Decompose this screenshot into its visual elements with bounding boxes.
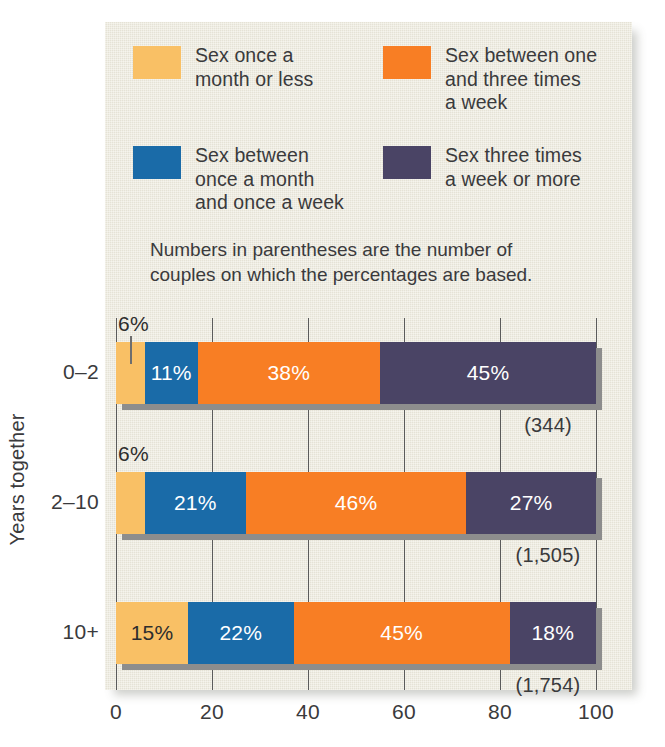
legend-item-one-to-three-week: Sex between one and three times a week xyxy=(383,44,597,115)
legend-item-label: Sex once a month or less xyxy=(195,44,313,91)
sample-count-label: (344) xyxy=(500,414,596,437)
legend-swatch-icon xyxy=(133,46,181,79)
bar-segment xyxy=(116,472,145,534)
stacked-bar: 21%46%27% xyxy=(116,472,596,534)
bar-segment: 15% xyxy=(116,602,188,664)
bar-row: 15%22%45%18% xyxy=(116,602,596,664)
bar-segment: 11% xyxy=(145,342,198,404)
x-axis-tick-label: 40 xyxy=(278,700,338,724)
bar-segment: 18% xyxy=(510,602,596,664)
bar-row: 11%38%45% xyxy=(116,342,596,404)
chart-figure: Sex once a month or less Sex between one… xyxy=(0,0,665,747)
legend-swatch-icon xyxy=(133,146,181,179)
sample-count-label: (1,754) xyxy=(500,674,596,697)
legend-item-label: Sex between once a month and once a week xyxy=(195,144,344,215)
label-leader-line xyxy=(130,336,132,364)
x-axis-tick-label: 60 xyxy=(374,700,434,724)
y-axis-tick-label: 2–10 xyxy=(51,490,99,514)
bar-segment: 22% xyxy=(188,602,294,664)
y-axis-title: Years together xyxy=(6,385,29,575)
segment-value-label-external: 6% xyxy=(118,442,149,466)
x-axis-tick-label: 80 xyxy=(470,700,530,724)
legend-item-label: Sex between one and three times a week xyxy=(445,44,597,115)
legend-item-three-plus-week: Sex three times a week or more xyxy=(383,144,582,191)
bar-segment: 46% xyxy=(246,472,467,534)
stacked-bar: 15%22%45%18% xyxy=(116,602,596,664)
bar-segment: 45% xyxy=(380,342,596,404)
bar-segment: 21% xyxy=(145,472,246,534)
sample-count-label: (1,505) xyxy=(500,544,596,567)
x-axis-tick-label: 100 xyxy=(566,700,626,724)
legend-item-label: Sex three times a week or more xyxy=(445,144,582,191)
legend-item-once-month-or-less: Sex once a month or less xyxy=(133,44,313,91)
bar-row: 21%46%27% xyxy=(116,472,596,534)
legend-swatch-icon xyxy=(383,46,431,79)
legend-item-month-to-week: Sex between once a month and once a week xyxy=(133,144,344,215)
plot-area: 11%38%45%6%(344)21%46%27%6%(1,505)15%22%… xyxy=(116,318,596,690)
x-axis-tick-label: 0 xyxy=(86,700,146,724)
bar-segment: 45% xyxy=(294,602,510,664)
segment-value-label-external: 6% xyxy=(118,312,149,336)
x-axis-tick-label: 20 xyxy=(182,700,242,724)
x-axis: 020406080100 xyxy=(116,700,596,740)
bar-segment: 27% xyxy=(466,472,596,534)
chart-panel: Sex once a month or less Sex between one… xyxy=(105,22,632,690)
legend-swatch-icon xyxy=(383,146,431,179)
chart-note: Numbers in parentheses are the number of… xyxy=(150,237,620,287)
y-axis-tick-label: 10+ xyxy=(62,620,99,644)
y-axis-tick-label: 0–2 xyxy=(63,360,99,384)
legend: Sex once a month or less Sex between one… xyxy=(105,22,632,218)
stacked-bar: 11%38%45% xyxy=(116,342,596,404)
bar-segment: 38% xyxy=(198,342,380,404)
